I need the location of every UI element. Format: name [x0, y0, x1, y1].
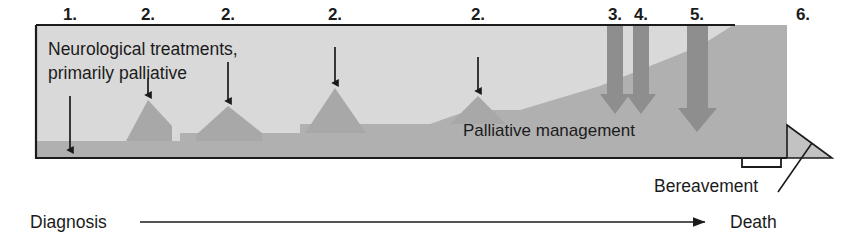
bereavement-label: Bereavement — [654, 176, 758, 196]
box-caption-line-1: Neurological treatments, — [48, 39, 238, 59]
box-caption-line-2: primarily palliative — [48, 63, 187, 83]
marker-label-3: 3. — [608, 5, 622, 24]
trajectory-diagram-canvas: 1. 2. 2. 2. 2. 3. 4. 5. 6. Neurological … — [0, 0, 855, 247]
palliative-management-label: Palliative management — [463, 121, 635, 140]
marker-label-2a: 2. — [141, 5, 155, 24]
axis-end-label: Death — [730, 212, 777, 232]
bereavement-bracket — [742, 158, 781, 167]
marker-label-5: 5. — [690, 5, 704, 24]
marker-label-6: 6. — [796, 5, 810, 24]
timeline-axis: Diagnosis Death — [30, 212, 777, 232]
marker-label-2d: 2. — [471, 5, 485, 24]
illness-trajectory-figure: 1. 2. 2. 2. 2. 3. 4. 5. 6. Neurological … — [0, 0, 855, 247]
marker-label-2c: 2. — [328, 5, 342, 24]
marker-labels: 1. 2. 2. 2. 2. 3. 4. 5. 6. — [63, 5, 810, 24]
marker-label-2b: 2. — [221, 5, 235, 24]
bereavement-wedge — [787, 125, 832, 158]
marker-label-1: 1. — [63, 5, 77, 24]
axis-start-label: Diagnosis — [30, 212, 107, 232]
marker-label-4: 4. — [634, 5, 648, 24]
